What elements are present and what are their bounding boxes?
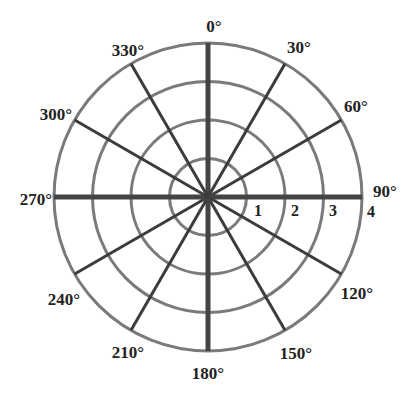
angle-label: 240°: [48, 290, 80, 309]
spoke-210-deg: [131, 197, 208, 330]
spoke-120-deg: [208, 197, 341, 274]
spoke-60-deg: [208, 120, 341, 197]
angle-label: 150°: [280, 344, 312, 363]
angle-label: 30°: [287, 38, 311, 57]
spoke-330-deg: [131, 64, 208, 197]
angle-label: 120°: [341, 284, 373, 303]
angle-label: 330°: [112, 41, 144, 60]
spoke-300-deg: [75, 120, 208, 197]
ring-label: 4: [367, 203, 375, 220]
radial-spokes: [54, 43, 362, 351]
angle-label: 180°: [192, 364, 224, 383]
angle-label: 300°: [40, 105, 72, 124]
angle-label: 210°: [112, 343, 144, 362]
spoke-240-deg: [75, 197, 208, 274]
angle-label: 0°: [206, 17, 221, 36]
ring-labels: 1234: [254, 202, 375, 220]
ring-label: 3: [329, 202, 337, 219]
angle-label: 60°: [344, 97, 368, 116]
spoke-30-deg: [208, 64, 285, 197]
ring-label: 1: [254, 202, 262, 219]
angle-label: 90°: [373, 182, 397, 201]
polar-grid-svg: 0°30°60°90°120°150°180°210°240°270°300°3…: [0, 0, 414, 396]
spoke-150-deg: [208, 197, 285, 330]
angle-label: 270°: [20, 190, 52, 209]
ring-label: 2: [291, 202, 299, 219]
polar-grid-diagram: 0°30°60°90°120°150°180°210°240°270°300°3…: [0, 0, 414, 396]
